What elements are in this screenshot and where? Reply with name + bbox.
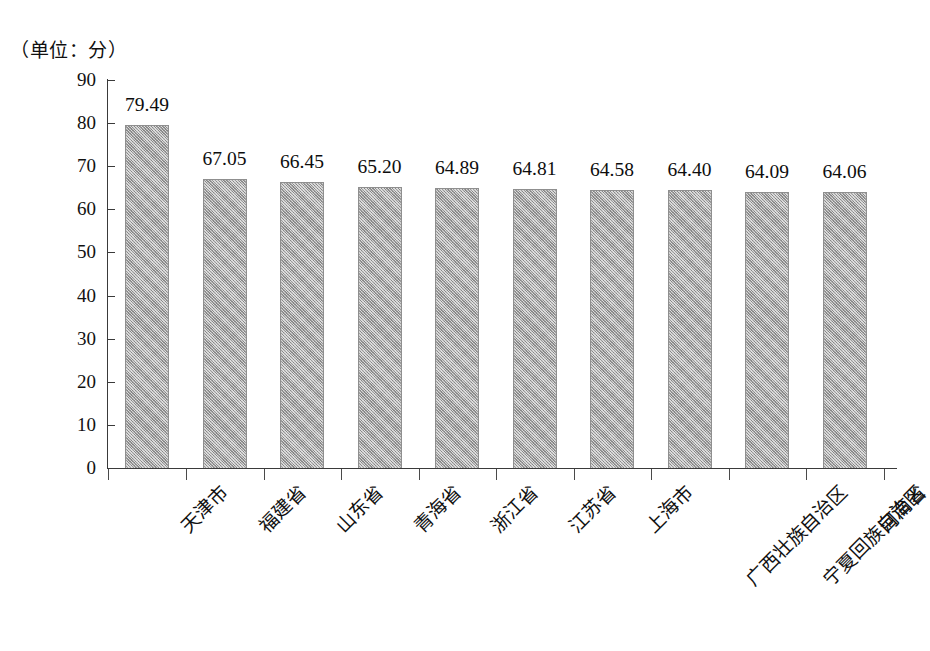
x-category-label: 江苏省 [565, 482, 619, 536]
x-category-label: 上海市 [643, 482, 697, 536]
x-tick-mark [884, 469, 885, 480]
y-tick-label: 20 [46, 372, 96, 391]
x-tick-mark [341, 469, 342, 480]
bar[interactable] [358, 187, 402, 468]
bar[interactable] [590, 190, 634, 468]
x-tick-mark [806, 469, 807, 480]
y-tick-label: 60 [46, 199, 96, 218]
x-tick-mark [419, 469, 420, 480]
bar-value-label: 65.20 [335, 157, 425, 177]
bar[interactable] [745, 192, 789, 468]
y-tick-label: 80 [46, 113, 96, 132]
y-tick-label: 0 [46, 458, 96, 477]
y-tick-label: 40 [46, 286, 96, 305]
bar-value-label: 64.89 [412, 158, 502, 178]
y-tick-label: 10 [46, 415, 96, 434]
bar-value-label: 64.81 [490, 159, 580, 179]
x-tick-mark [496, 469, 497, 480]
bar-value-label: 64.58 [567, 160, 657, 180]
bar[interactable] [668, 190, 712, 468]
bar-value-label: 64.09 [722, 162, 812, 182]
y-tick-label: 90 [46, 70, 96, 89]
y-tick-label: 70 [46, 156, 96, 175]
x-axis-line [107, 468, 897, 469]
y-tick-label: 50 [46, 242, 96, 261]
x-tick-mark [729, 469, 730, 480]
plot-area [107, 80, 893, 468]
x-category-label: 浙江省 [488, 482, 542, 536]
bar-value-label: 79.49 [102, 95, 192, 115]
bar[interactable] [435, 188, 479, 468]
bar-value-label: 67.05 [180, 149, 270, 169]
x-tick-mark [186, 469, 187, 480]
bar-value-label: 64.06 [800, 162, 890, 182]
y-tick-label: 30 [46, 329, 96, 348]
x-tick-mark [574, 469, 575, 480]
bar-value-label: 66.45 [257, 152, 347, 172]
x-category-label: 青海省 [410, 482, 464, 536]
bar[interactable] [280, 182, 324, 468]
bar[interactable] [823, 192, 867, 468]
bar[interactable] [203, 179, 247, 468]
x-tick-mark [108, 469, 109, 480]
y-tick-mark [108, 468, 115, 469]
bar-value-label: 64.40 [645, 160, 735, 180]
x-category-label: 福建省 [255, 482, 309, 536]
x-category-label: 山东省 [333, 482, 387, 536]
unit-caption: （单位：分） [10, 35, 127, 62]
bar[interactable] [125, 125, 169, 468]
x-tick-mark [651, 469, 652, 480]
bar[interactable] [513, 189, 557, 468]
x-category-label: 天津市 [178, 482, 232, 536]
x-tick-mark [264, 469, 265, 480]
